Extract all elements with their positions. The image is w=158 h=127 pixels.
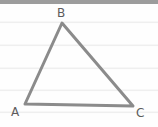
rule-line-5 (0, 112, 158, 114)
rule-line-4 (0, 90, 158, 92)
rule-line-3 (0, 68, 158, 70)
paper-background (0, 0, 158, 127)
vertex-label-a: A (11, 106, 19, 118)
rule-line-1 (0, 22, 158, 24)
diagram-canvas: A B C (0, 0, 158, 127)
vertex-label-c: C (136, 107, 144, 119)
vertex-label-b: B (57, 7, 65, 19)
triangle-diagram-svg (0, 0, 158, 127)
paper-top-bar (0, 0, 158, 4)
